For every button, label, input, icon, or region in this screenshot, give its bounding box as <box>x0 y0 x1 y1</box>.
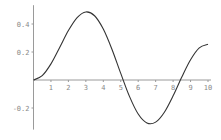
x-tick-label: 9 <box>188 84 192 92</box>
x-tick-label: 10 <box>204 84 212 92</box>
x-tick-label: 6 <box>136 84 140 92</box>
axes <box>34 5 212 129</box>
x-tick-label: 2 <box>66 84 70 92</box>
x-tick-label: 8 <box>171 84 175 92</box>
y-ticks: 0.40.2-0.2 <box>13 21 34 113</box>
y-tick-label: 0.4 <box>17 21 30 29</box>
x-tick-label: 7 <box>154 84 158 92</box>
y-tick-label: 0.2 <box>17 49 30 57</box>
y-tick-label: -0.2 <box>13 105 30 113</box>
x-tick-label: 5 <box>119 84 123 92</box>
data-curve <box>34 12 209 124</box>
x-tick-label: 1 <box>49 84 53 92</box>
x-ticks: 12345678910 <box>49 80 212 92</box>
x-tick-label: 4 <box>101 84 105 92</box>
line-chart: 12345678910 0.40.2-0.2 <box>0 0 221 140</box>
x-tick-label: 3 <box>84 84 88 92</box>
